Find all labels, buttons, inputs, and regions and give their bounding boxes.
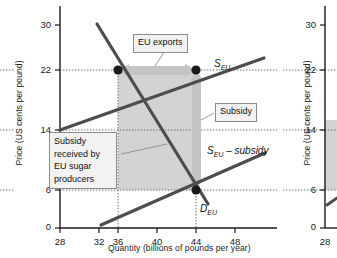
y-tick-label-30: 30 [31,19,51,30]
right-y-tick-label-0: 0 [296,221,316,232]
y-tick-label-0: 0 [31,221,51,232]
right-y-tick-label-30: 30 [296,19,316,30]
right-x-tick-label-28: 28 [314,236,336,247]
curve-label-s-minus-main: S [207,145,214,156]
callout-eu-exports: EU exports [133,34,188,53]
subsidized-equilibrium-point [191,185,200,194]
x-tick-label-48: 48 [224,236,246,247]
callout-subsidy-received: Subsidy received by EU sugar producers [49,132,117,189]
curve-label-s-eu-minus-subsidy: SEU – subsidy [207,145,268,158]
right-panel-curve [327,198,337,205]
curve-label-d-eu: DEU [200,203,217,216]
right-y-tick-label-6: 6 [296,184,316,195]
callout-subsidy: Subsidy [215,103,257,122]
callout-subsidy-received-line-1: Subsidy [54,135,112,148]
x-tick-label-44: 44 [185,236,207,247]
callout-subsidy-received-line-2: received by [54,148,112,161]
right-y-tick-label-22: 22 [296,64,316,75]
callout-subsidy-received-line-4: producers [54,173,112,186]
curve-label-s-eu-main: S [214,58,221,69]
domestic-equilibrium-point [113,65,122,74]
world-supply-point [191,65,200,74]
x-tick-label-40: 40 [146,236,168,247]
curve-label-s-minus-sub: EU [214,151,224,158]
y-tick-label-6: 6 [31,184,51,195]
y-axis-title: Price (US cents per pound) [14,48,24,178]
sugar-subsidy-chart-figure: Price (US cents per pound) Price (US cen… [0,0,337,258]
x-tick-label-36: 36 [107,236,129,247]
curve-label-s-eu-sub: EU [221,64,231,71]
x-tick-label-28: 28 [49,236,71,247]
right-y-tick-label-14: 14 [296,124,316,135]
y-tick-label-22: 22 [31,64,51,75]
curve-label-s-eu: SEU [214,58,230,71]
subsidy-leader [201,113,214,120]
y-tick-label-14: 14 [31,124,51,135]
curve-label-d-eu-sub: EU [207,209,217,216]
callout-subsidy-received-line-3: EU sugar [54,160,112,173]
curve-label-s-minus-tail: – subsidy [223,145,268,156]
panel-seam [278,0,279,258]
